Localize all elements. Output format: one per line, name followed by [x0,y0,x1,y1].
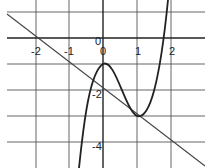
y-tick: -2 [92,88,102,100]
x-tick: 1 [135,45,141,57]
x-tick: -2 [31,45,41,57]
y-tick: -4 [92,140,102,152]
x-tick: -1 [64,45,74,57]
graph-canvas: -2 -1 0 1 2 0 -2 -4 [0,0,205,168]
x-tick: 2 [169,45,175,57]
function-graph: -2 -1 0 1 2 0 -2 -4 [0,0,205,168]
y-tick: 0 [95,35,101,47]
